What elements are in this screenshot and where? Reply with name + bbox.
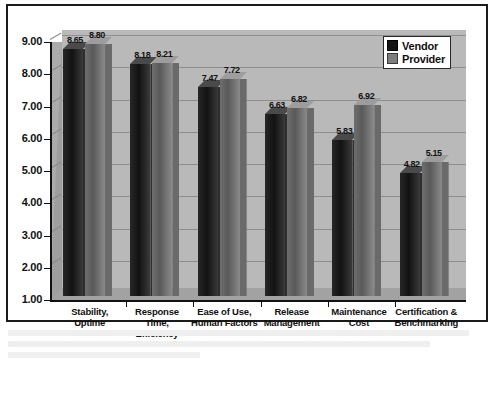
bar-vendor bbox=[265, 114, 285, 296]
bar-vendor bbox=[130, 64, 150, 296]
bar-provider bbox=[287, 108, 307, 296]
bar-value-label: 8.21 bbox=[144, 49, 184, 59]
x-axis-category-label: Certification &Benchmarking bbox=[387, 306, 466, 328]
gridline bbox=[62, 132, 466, 133]
bar-side bbox=[105, 44, 112, 296]
chart-legend: Vendor Provider bbox=[383, 36, 451, 69]
bar-face bbox=[130, 64, 150, 296]
bar-provider bbox=[85, 44, 105, 296]
y-axis-line bbox=[50, 42, 52, 301]
bar-value-label: 6.82 bbox=[279, 94, 319, 104]
bar-side bbox=[172, 63, 179, 296]
caption-placeholder bbox=[8, 330, 488, 390]
bar-face bbox=[152, 63, 172, 296]
legend-swatch-provider bbox=[387, 53, 398, 64]
y-axis-tick-label: 9.00 bbox=[0, 35, 42, 47]
bar-side bbox=[307, 108, 314, 296]
y-axis-tick-label: 4.00 bbox=[0, 196, 42, 208]
x-axis-line bbox=[50, 300, 466, 302]
bar-value-label: 7.72 bbox=[212, 65, 252, 75]
legend-label-provider: Provider bbox=[402, 53, 445, 65]
bar-face bbox=[400, 173, 420, 296]
legend-swatch-vendor bbox=[387, 40, 398, 51]
y-axis-tick-label: 5.00 bbox=[0, 164, 42, 176]
bar-value-label: 6.92 bbox=[346, 91, 386, 101]
bar-face bbox=[354, 105, 374, 296]
bar-vendor bbox=[400, 173, 420, 296]
bar-provider bbox=[152, 63, 172, 296]
x-axis-label-line: Benchmarking bbox=[387, 317, 466, 328]
bar-value-label: 5.15 bbox=[414, 148, 454, 158]
bar-face bbox=[85, 44, 105, 296]
bar-provider bbox=[422, 162, 442, 296]
bar-face bbox=[265, 114, 285, 296]
bar-face bbox=[422, 162, 442, 296]
bar-vendor bbox=[332, 140, 352, 296]
bar-face bbox=[287, 108, 307, 296]
bar-provider bbox=[354, 105, 374, 296]
y-axis-tick-label: 3.00 bbox=[0, 229, 42, 241]
bar-face bbox=[63, 49, 83, 296]
y-axis-tick-label: 7.00 bbox=[0, 100, 42, 112]
y-axis-tick-label: 8.00 bbox=[0, 67, 42, 79]
bar-value-label: 8.80 bbox=[77, 30, 117, 40]
y-axis-tick-label: 1.00 bbox=[0, 293, 42, 305]
x-axis-label-line: Certification & bbox=[387, 306, 466, 317]
bar-side bbox=[240, 79, 247, 296]
bar-face bbox=[332, 140, 352, 296]
legend-item-provider: Provider bbox=[387, 52, 445, 65]
bar-vendor bbox=[63, 49, 83, 296]
bar-side bbox=[374, 105, 381, 296]
bar-face bbox=[220, 79, 240, 296]
plot-area: 9.008.007.006.005.004.003.002.001.00 8.6… bbox=[8, 6, 486, 320]
legend-item-vendor: Vendor bbox=[387, 39, 445, 52]
bar-provider bbox=[220, 79, 240, 296]
bar-side bbox=[442, 162, 449, 296]
y-axis-tick-label: 2.00 bbox=[0, 261, 42, 273]
legend-label-vendor: Vendor bbox=[402, 40, 438, 52]
bar-vendor bbox=[198, 87, 218, 296]
chart-figure: 9.008.007.006.005.004.003.002.001.00 8.6… bbox=[6, 4, 488, 322]
y-axis-tick-label: 6.00 bbox=[0, 132, 42, 144]
bar-face bbox=[198, 87, 218, 296]
